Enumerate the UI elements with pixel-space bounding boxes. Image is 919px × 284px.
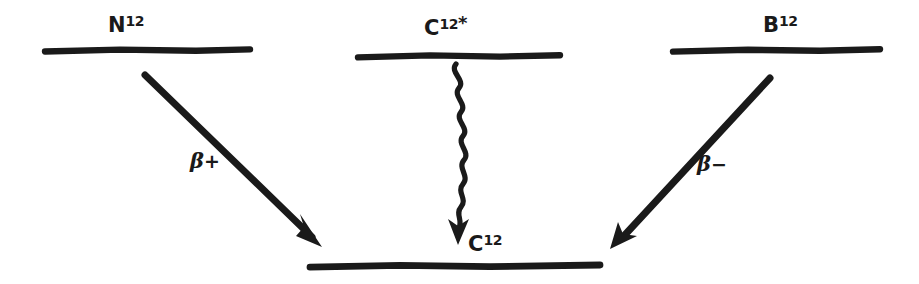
level-line-n12 [45,49,250,51]
level-line-b12 [673,49,880,51]
beta-plus-greek-symbol: β [190,148,204,173]
transition-beta-minus [610,78,770,249]
beta-plus-sign: + [204,150,220,172]
level-label-c12-excited: C12* [424,14,467,39]
beta-plus-arrow-shaft [145,75,312,237]
beta-minus-greek-symbol: β [697,151,711,176]
transition-beta-plus [145,75,322,247]
level-label-n12-mass: 12 [126,13,144,29]
level-line-c12-excited [358,55,560,57]
beta-minus-arrow-shaft [622,78,770,238]
level-label-b12-mass: 12 [779,13,797,29]
decay-scheme-canvas [0,0,919,284]
level-label-c12-ground-mass: 12 [483,232,501,248]
level-label-c12-ground-element: C [468,232,483,256]
level-label-c12-excited-mass: 12 [439,16,457,32]
level-label-c12-ground: C12 [468,233,502,255]
beta-minus-sign: − [711,153,727,175]
decay-scheme-figure: N12 C12* B12 C12 β+ β− [0,0,919,284]
level-label-b12: B12 [763,14,798,36]
level-label-b12-element: B [763,13,779,37]
level-line-c12-ground [310,265,600,267]
transition-gamma [448,64,469,245]
excited-state-asterisk-icon: * [458,12,467,33]
beta-plus-arrowhead [296,214,322,247]
transition-label-beta-minus: β− [697,153,727,174]
level-label-n12: N12 [108,14,144,36]
gamma-wavy-shaft [454,64,466,228]
transition-label-beta-plus: β+ [190,150,220,171]
level-label-n12-element: N [108,13,126,37]
level-label-c12-excited-element: C [424,16,439,40]
